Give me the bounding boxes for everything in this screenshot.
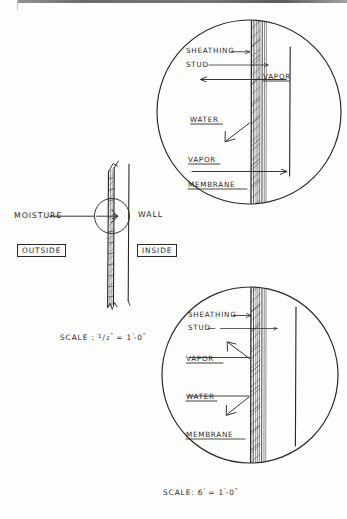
arrow-water-bottom [227, 397, 249, 415]
label-sheathing-bottom: SHEATHING [188, 311, 236, 318]
drawing-sheet: MOISTURE WALL OUTSIDE INSIDE SCALE : 1/2… [0, 0, 347, 519]
label-vapor-bottom: VAPOR [186, 355, 214, 362]
detail-circle-top [157, 18, 341, 208]
label-moisture: MOISTURE [14, 212, 62, 220]
label-water-bottom: WATER [186, 393, 215, 400]
drawing-linework [0, 0, 347, 519]
arrow-vapor-bottom [228, 343, 250, 359]
label-vapor-upper-top: VAPOR [263, 73, 291, 80]
scale-note-detail: SCALE: 6' = 1'-0" [163, 488, 238, 497]
scale-note-elevation: SCALE : 1/2" = 1'-0" [60, 333, 146, 343]
label-stud-top: STUD [186, 61, 209, 68]
wall-section-elevation [95, 161, 131, 310]
label-membrane-top: MEMBRANE [188, 181, 235, 188]
label-outside: OUTSIDE [17, 244, 66, 257]
label-vapor-lower-top: VAPOR [188, 156, 216, 163]
scale-note-elevation-word: SCALE : [60, 333, 95, 342]
label-inside: INSIDE [137, 244, 177, 257]
arrow-water-top [226, 123, 250, 141]
scale-note-elevation-fraction: 1/2 [98, 334, 110, 342]
label-stud-bottom: STUD [188, 324, 211, 331]
scale-note-elevation-equals: = [116, 333, 123, 342]
label-water-top: WATER [190, 116, 219, 123]
scale-note-detail-word: SCALE: [163, 488, 195, 497]
label-membrane-bottom: MEMBRANE [186, 431, 233, 438]
label-sheathing-top: SHEATHING [186, 47, 234, 54]
label-wall: WALL [138, 211, 163, 219]
scale-note-detail-equals: = [208, 488, 215, 497]
